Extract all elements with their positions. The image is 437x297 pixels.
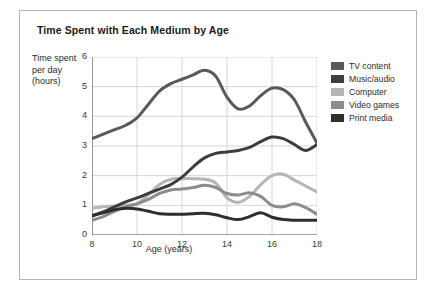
y-tick-label: 5 (73, 81, 87, 91)
legend-swatch-icon (331, 114, 344, 122)
series-line-tv-content (92, 70, 317, 143)
legend-item-label: Video games (349, 100, 399, 110)
legend-item-label: Music/audio (349, 74, 395, 84)
legend-item-label: Print media (349, 113, 392, 123)
legend-item[interactable]: Video games (331, 99, 421, 112)
legend-item-label: TV content (349, 61, 391, 71)
series-lines (92, 70, 317, 220)
legend-swatch-icon (331, 75, 344, 83)
x-axis-title: Age (years) (20, 244, 318, 254)
legend-swatch-icon (331, 62, 344, 70)
y-tick-label: 2 (73, 170, 87, 180)
series-line-print-media (92, 208, 317, 220)
legend-item[interactable]: Computer (331, 85, 421, 98)
legend-swatch-icon (331, 101, 344, 109)
chart-legend: TV contentMusic/audioComputerVideo games… (331, 59, 421, 125)
chart-title: Time Spent with Each Medium by Age (37, 24, 229, 36)
y-tick-label: 0 (73, 229, 87, 239)
figure-frame: Time Spent with Each Medium by Age Time … (19, 10, 417, 280)
line-chart-svg (92, 57, 317, 235)
y-tick-label: 4 (73, 110, 87, 120)
legend-item[interactable]: TV content (331, 59, 421, 72)
legend-item-label: Computer (349, 87, 387, 97)
y-tick-label: 6 (73, 51, 87, 61)
legend-swatch-icon (331, 88, 344, 96)
legend-item[interactable]: Music/audio (331, 72, 421, 85)
y-tick-label: 3 (73, 140, 87, 150)
y-tick-label: 1 (73, 199, 87, 209)
plot-area (92, 57, 317, 235)
legend-item[interactable]: Print media (331, 112, 421, 125)
